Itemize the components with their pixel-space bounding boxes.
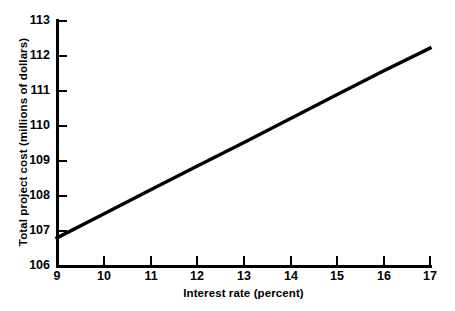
data-line-total-project-cost — [57, 48, 430, 238]
y-tick-112 — [59, 55, 67, 57]
x-tick-label-17: 17 — [415, 270, 445, 283]
y-tick-label-111: 111 — [16, 84, 50, 97]
y-tick-109 — [59, 160, 67, 162]
y-tick-label-109: 109 — [16, 154, 50, 167]
x-tick-11 — [150, 256, 152, 266]
y-tick-107 — [59, 230, 67, 232]
y-tick-111 — [59, 90, 67, 92]
x-tick-14 — [290, 256, 292, 266]
y-tick-110 — [59, 125, 67, 127]
x-tick-label-15: 15 — [322, 270, 352, 283]
x-tick-16 — [383, 256, 385, 266]
y-tick-label-113: 113 — [16, 14, 50, 27]
y-tick-label-108: 108 — [16, 189, 50, 202]
x-tick-15 — [336, 256, 338, 266]
x-tick-label-14: 14 — [276, 270, 306, 283]
x-tick-label-13: 13 — [229, 270, 259, 283]
x-tick-17 — [429, 256, 431, 266]
x-tick-label-12: 12 — [182, 270, 212, 283]
y-tick-label-107: 107 — [16, 224, 50, 237]
x-tick-label-11: 11 — [136, 270, 166, 283]
x-axis-title: Interest rate (percent) — [57, 287, 430, 299]
y-tick-108 — [59, 195, 67, 197]
y-tick-113 — [59, 20, 67, 22]
y-tick-label-110: 110 — [16, 119, 50, 132]
x-tick-label-10: 10 — [89, 270, 119, 283]
y-tick-label-112: 112 — [16, 49, 50, 62]
x-tick-12 — [196, 256, 198, 266]
chart-container: Total project cost (millions of dollars)… — [0, 0, 455, 311]
x-tick-13 — [243, 256, 245, 266]
x-tick-10 — [103, 256, 105, 266]
x-tick-label-16: 16 — [369, 270, 399, 283]
x-tick-label-9: 9 — [42, 270, 72, 283]
